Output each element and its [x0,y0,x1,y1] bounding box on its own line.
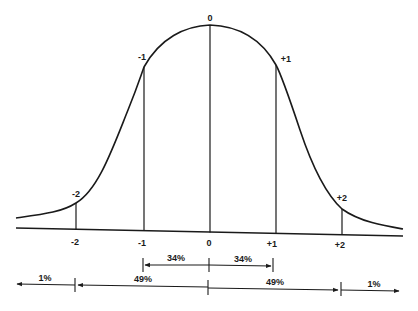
curve-label-plus1: +1 [281,54,291,64]
curve-label-plus2: +2 [337,193,347,203]
axis-label-minus1: -1 [138,238,146,248]
inner-span-right-arrow [209,265,271,266]
axis-label-plus1: +1 [267,239,277,249]
axis-label-plus2: +2 [335,240,345,250]
inner-span-left-pct: 34% [167,253,185,263]
curve-label-minus2: -2 [72,189,80,199]
normal-distribution-diagram: 0 -1 +1 -2 +2 -2 -1 0 +1 +2 34% 34% 1% 4… [0,0,418,311]
curve-label-minus1: -1 [138,52,146,62]
curve-label-center: 0 [207,13,212,23]
axis-label-zero: 0 [206,238,211,248]
outer-span-left-arrow [78,285,208,287]
outer-span-far-left-pct: 1% [38,273,51,283]
outer-span-left-pct: 49% [134,274,152,284]
axis-label-minus2: -2 [71,237,79,247]
outer-span-right-pct: 49% [266,277,284,287]
outer-span-far-right-pct: 1% [367,279,380,289]
outer-span-far-right-arrow [341,290,399,291]
inner-span-right-pct: 34% [234,254,252,264]
outer-span-right-arrow [208,288,338,290]
outer-span-far-left-arrow [17,284,75,285]
